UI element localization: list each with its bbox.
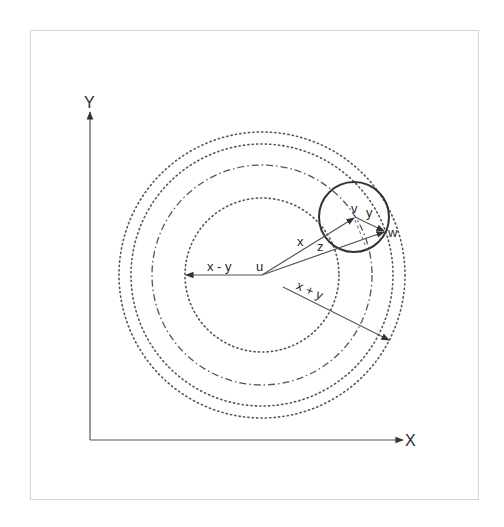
label-v: v	[351, 201, 358, 216]
label-u: u	[256, 259, 263, 274]
vectors	[186, 217, 389, 340]
label-x-minus-y: x - y	[207, 259, 232, 274]
x-axis-label: X	[405, 432, 416, 449]
vector-x-plus-y	[283, 287, 389, 340]
label-w: w	[387, 225, 398, 240]
label-z: z	[317, 239, 324, 254]
y-axis-label: Y	[84, 94, 95, 111]
label-x: x	[297, 234, 304, 249]
vector-diagram: Y X u v w x y z x - y x + y	[0, 0, 504, 527]
axes: Y X	[84, 94, 416, 449]
label-x-plus-y: x + y	[294, 278, 326, 303]
small-circle	[319, 182, 389, 252]
label-y: y	[366, 205, 373, 220]
v-guide-line	[355, 220, 368, 252]
vector-x	[262, 218, 354, 275]
